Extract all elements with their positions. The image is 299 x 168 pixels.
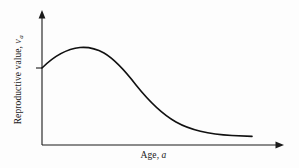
chart-plot-area [0, 0, 299, 168]
x-axis-label-variable: a [162, 150, 167, 160]
x-axis-arrowhead-icon [276, 142, 285, 149]
figure-container: Age, a Reproductive value, va [0, 0, 299, 168]
x-axis-label: Age, a [0, 150, 299, 160]
y-axis-label-subscript: a [17, 35, 25, 39]
y-axis-arrowhead-icon [39, 10, 46, 19]
y-axis-label-variable: v [13, 39, 23, 43]
reproductive-value-curve [42, 47, 252, 136]
y-axis-label: Reproductive value, va [13, 15, 25, 145]
x-axis-label-prefix: Age, [141, 150, 162, 160]
y-axis-label-prefix: Reproductive value, [13, 43, 23, 124]
